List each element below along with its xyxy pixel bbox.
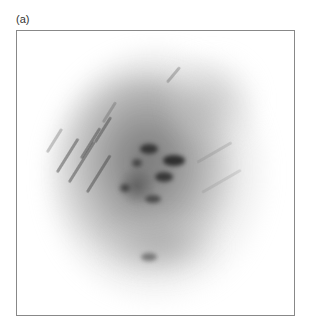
panel-label: (a): [16, 13, 29, 25]
dark-spot: [141, 253, 157, 261]
dark-spot: [145, 195, 161, 203]
dark-spot: [120, 184, 130, 192]
lower-lobe: [107, 216, 217, 276]
dark-spot: [140, 144, 158, 154]
upper-right-lobe: [167, 56, 257, 146]
figure-image-frame: [16, 30, 295, 316]
dark-spot: [132, 159, 142, 167]
dark-spot: [155, 172, 173, 182]
dark-spot: [163, 155, 185, 166]
